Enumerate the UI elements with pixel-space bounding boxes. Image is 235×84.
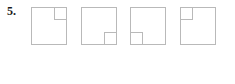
answer-figure-2[interactable] [81,7,117,45]
answer-figure-1[interactable] [31,7,67,45]
outer-square-1 [32,8,67,45]
question-row: 5. [0,0,235,84]
outer-square-3 [131,8,166,45]
outer-square-2 [82,8,117,45]
outer-square-4 [181,8,216,45]
answer-figure-4[interactable] [180,7,216,45]
question-number-label: 5. [7,4,16,18]
answer-figure-3[interactable] [130,7,166,45]
